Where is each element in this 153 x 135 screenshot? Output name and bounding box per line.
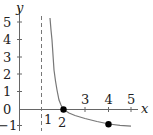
x-tick-label-4: 4 — [105, 92, 113, 107]
y-tick-label-2: 2 — [3, 67, 11, 82]
x-tick-label-3: 3 — [81, 92, 89, 107]
point-4-neg1 — [105, 121, 111, 127]
x-tick-label-1: 1 — [44, 112, 52, 127]
y-tick-label-1: 1 — [3, 84, 11, 99]
y-axis-label: y — [15, 0, 24, 15]
x-tick-label-2: 2 — [58, 115, 66, 130]
y-tick-label-4: 4 — [3, 32, 11, 47]
y-tick-label-3: 3 — [3, 50, 11, 65]
y-tick-label-5: 5 — [3, 15, 11, 30]
function-graph: y x 5 4 3 2 1 0 −1 1 2 3 4 5 — [0, 0, 153, 135]
x-tick-label-5: 5 — [127, 92, 135, 107]
x-axis-label: x — [141, 101, 149, 116]
y-tick-label-0: 0 — [3, 102, 11, 117]
point-2-0 — [60, 106, 66, 112]
y-tick-label-neg1: −1 — [0, 118, 17, 133]
